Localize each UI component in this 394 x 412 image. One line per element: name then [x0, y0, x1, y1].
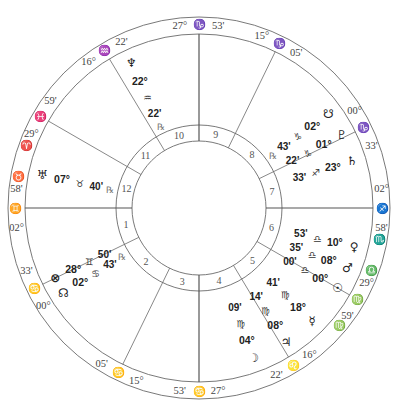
planet-glyph-icon: ♇: [336, 128, 347, 142]
planet-degree: 23°: [325, 161, 341, 173]
cusp-sign-glyph-house-6: ♍: [351, 293, 364, 306]
cusp-degree-house-5: 16°: [302, 349, 317, 360]
house-number-5: 5: [250, 255, 255, 266]
cusp-minute-house-12: 59': [44, 95, 57, 106]
planet-degree: 08°: [321, 254, 337, 266]
cusp-degree-house-2: 00°: [36, 300, 51, 311]
planet-glyph-icon: ♃: [281, 335, 292, 349]
house-numbers: 123456789101112: [122, 129, 275, 286]
retrograde-icon: ℞: [106, 185, 114, 195]
cusp-sign-glyph-house-1: ♊: [9, 202, 22, 215]
planet-neptune: ♆22°♒22'℞: [126, 56, 165, 132]
planet-degree: 02°: [304, 120, 320, 132]
planet-mars: ♂08°♎35': [290, 242, 353, 275]
intercepted-sign-glyph: ♏: [373, 233, 386, 246]
cusp-line-house-11: [109, 59, 164, 151]
planet-degree: 07°: [54, 173, 70, 185]
house-number-10: 10: [174, 130, 184, 141]
house-number-7: 7: [270, 186, 275, 197]
planet-minute: 40': [90, 181, 104, 192]
intercepted-sign-glyph: ♍: [333, 319, 346, 332]
planet-degree: 28°: [65, 263, 81, 275]
planet-sign-glyph: ♎: [313, 233, 322, 244]
planet-degree: 22°: [132, 75, 148, 87]
cusp-sign-glyph-house-7: ♐: [376, 202, 389, 215]
cusp-degree-house-12: 29°: [24, 128, 39, 139]
cusp-line-house-9: [228, 52, 275, 148]
cusp-sign-glyph-house-4: ♋: [193, 385, 206, 398]
planet-minute: 53': [294, 228, 308, 239]
retrograde-icon: ℞: [269, 151, 277, 161]
planet-glyph-icon: ☊: [58, 286, 69, 300]
cusp-degree-house-11: 16°: [81, 56, 96, 67]
planet-sign-glyph: ♎: [308, 249, 317, 260]
cusp-sign-glyph-house-11: ♒: [98, 44, 111, 57]
planet-degree: 02°: [72, 276, 88, 288]
planet-minute: 14': [249, 291, 263, 302]
cusp-line-house-12: [48, 121, 141, 175]
planet-minute: 43': [277, 141, 291, 152]
cusp-degree-house-10: 27°: [172, 20, 187, 31]
retrograde-icon: ℞: [157, 122, 165, 132]
planet-degree: 10°: [327, 236, 343, 248]
planet-sign-glyph: ♍: [261, 305, 270, 316]
house-number-2: 2: [143, 256, 148, 267]
house-number-ring-inner: [132, 141, 266, 275]
planet-glyph-icon: ☿: [308, 314, 315, 328]
planet-degree: 04°: [239, 334, 255, 346]
house-number-3: 3: [180, 276, 185, 287]
planet-glyph-icon: ☽: [248, 351, 259, 365]
cusp-degree-house-9: 15°: [254, 30, 269, 41]
cusp-sign-glyph-house-12: ♓: [34, 110, 47, 123]
planet-moon: ☽04°♍09': [228, 302, 259, 366]
house-number-6: 6: [269, 222, 274, 233]
cusp-line-house-3: [123, 268, 170, 364]
retrograde-icon: ℞: [118, 252, 126, 262]
planet-glyph-icon: ♀: [350, 240, 359, 254]
planet-sign-glyph: ♍: [281, 289, 290, 300]
planet-glyph-icon: ♂: [342, 261, 353, 275]
cusp-minute-house-3: 05': [96, 358, 109, 369]
planet-minute: 00': [283, 256, 297, 267]
cusp-minute-house-1: 58': [10, 183, 23, 194]
planet-sign-glyph: ♋: [91, 268, 100, 279]
house-number-4: 4: [217, 275, 222, 286]
planet-positions: ♆22°♒22'℞♅07°♉40'℞⊗28°♊50'☊02°♋43'℞☽04°♍…: [37, 56, 359, 365]
planet-glyph-icon: ♆: [126, 56, 137, 70]
cusp-sign-glyph-house-5: ♌: [287, 359, 300, 372]
house-number-8: 8: [250, 149, 255, 160]
cusp-minute-house-4: 53': [174, 385, 187, 396]
planet-degree: 18°: [290, 301, 306, 313]
planet-degree: 01°: [316, 138, 332, 150]
cusp-minute-house-11: 22': [115, 36, 128, 47]
natal-chart-wheel: 02°♊58'00°♋33'15°♋05'27°♋53'16°♌22'29°♍5…: [0, 0, 394, 412]
planet-minute: 22': [148, 108, 162, 119]
house-number-9: 9: [213, 129, 218, 140]
cusp-degree-house-3: 15°: [129, 375, 144, 386]
planet-minute: 09': [228, 302, 242, 313]
cusp-minute-house-5: 22': [270, 369, 283, 380]
intercepted-sign-glyph: ♈: [20, 139, 33, 152]
planet-sign-glyph: ♐: [311, 167, 320, 178]
planet-glyph-icon: ☉: [332, 281, 343, 295]
planet-sign-glyph: ♎: [300, 264, 309, 275]
planet-uranus: ♅07°♉40'℞: [37, 168, 114, 195]
cusp-sign-glyph-house-8: ♑: [357, 121, 370, 134]
planet-sign-glyph: ♑: [303, 148, 312, 159]
planet-sign-glyph: ♉: [75, 178, 84, 189]
house-cusp-lines: [25, 34, 373, 382]
cusp-minute-house-10: 53': [212, 20, 225, 31]
cusp-sign-glyph-house-3: ♋: [112, 366, 125, 379]
planet-degree: 00°: [312, 272, 328, 284]
planet-minute: 43': [103, 259, 117, 270]
cusp-sign-glyph-house-9: ♑: [273, 37, 286, 50]
planet-minute: 41': [266, 277, 280, 288]
planet-glyph-icon: ♄: [347, 154, 358, 168]
cusp-degree-house-7: 02°: [374, 183, 389, 194]
planet-glyph-icon: ⊗: [50, 271, 60, 285]
cusp-minute-house-8: 33': [365, 140, 378, 151]
planet-sign-glyph: ♍: [236, 318, 245, 329]
planet-venus: ♀10°♎53': [294, 228, 359, 253]
planet-minute: 33': [293, 172, 307, 183]
intercepted-sign-glyph: ♉: [12, 170, 25, 183]
